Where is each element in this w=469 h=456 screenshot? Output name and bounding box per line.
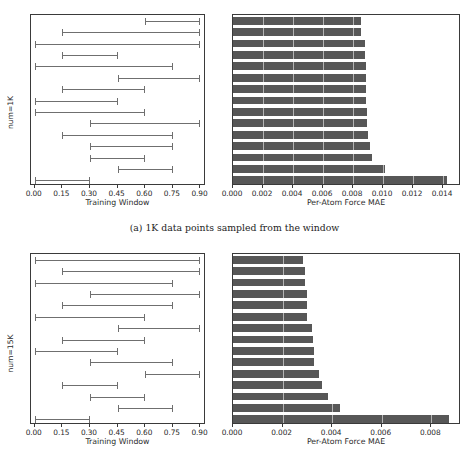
interval-range-mark: [35, 317, 146, 318]
panel-a-ylabel: num=1K: [6, 93, 15, 133]
bar: [233, 404, 340, 412]
gridline: [383, 15, 384, 184]
x-tick-label: 0.45: [109, 189, 125, 198]
bar: [233, 415, 449, 423]
interval-range-mark: [118, 328, 201, 329]
interval-range-mark: [62, 89, 145, 90]
x-tick: [232, 424, 233, 427]
interval-cap-left: [90, 120, 91, 127]
interval-range-mark: [62, 55, 117, 56]
interval-range-mark: [90, 362, 173, 363]
bar: [233, 28, 361, 36]
interval-range-mark: [90, 146, 173, 147]
interval-cap-left: [90, 155, 91, 162]
interval-cap-left: [62, 29, 63, 36]
x-tick-label: 0.004: [321, 428, 342, 437]
x-tick-label: 0.75: [164, 428, 180, 437]
panel-b-ylabel: num=15K: [6, 334, 15, 374]
x-tick-label: 0.00: [26, 428, 42, 437]
x-tick: [442, 185, 443, 188]
x-tick-label: 0.75: [164, 189, 180, 198]
interval-range-mark: [35, 260, 201, 261]
x-tick: [331, 424, 332, 427]
interval-cap-right: [89, 177, 90, 184]
x-tick: [199, 185, 200, 188]
interval-cap-left: [62, 268, 63, 275]
interval-range-mark: [145, 374, 200, 375]
interval-range-mark: [90, 158, 145, 159]
x-tick-label: 0.002: [252, 189, 273, 198]
interval-cap-left: [35, 109, 36, 116]
x-tick: [117, 424, 118, 427]
interval-cap-left: [118, 405, 119, 412]
interval-cap-left: [62, 52, 63, 59]
gridline: [283, 254, 284, 423]
figure-root: num=1K 0.000.150.300.450.600.750.90 Trai…: [0, 0, 469, 456]
x-tick-label: 0.008: [420, 428, 441, 437]
x-tick-label: 0.012: [402, 189, 423, 198]
axes-a-right: [232, 14, 460, 185]
interval-cap-right: [172, 166, 173, 173]
interval-cap-left: [62, 86, 63, 93]
x-tick-label: 0.60: [136, 189, 152, 198]
bar: [233, 165, 385, 173]
x-tick: [292, 185, 293, 188]
interval-range-mark: [118, 78, 201, 79]
x-tick: [352, 185, 353, 188]
bar: [233, 301, 307, 309]
x-tick: [322, 185, 323, 188]
interval-range-mark: [62, 385, 117, 386]
interval-cap-left: [35, 416, 36, 423]
x-tick-label: 0.90: [191, 189, 207, 198]
x-tick-label: 0.30: [81, 189, 97, 198]
interval-cap-left: [35, 41, 36, 48]
bar: [233, 51, 365, 59]
x-tick: [282, 424, 283, 427]
interval-range-mark: [35, 419, 90, 420]
x-tick: [144, 424, 145, 427]
x-tick: [34, 424, 35, 427]
panel-a-left-xlabel: Training Window: [30, 198, 205, 207]
interval-cap-right: [117, 98, 118, 105]
gridline: [323, 15, 324, 184]
interval-cap-right: [144, 86, 145, 93]
bar: [233, 62, 366, 70]
x-tick-label: 0.008: [342, 189, 363, 198]
bar: [233, 74, 366, 82]
x-tick: [117, 185, 118, 188]
caption-a: (a) 1K data points sampled from the wind…: [0, 222, 469, 233]
x-tick: [34, 185, 35, 188]
gridline: [413, 15, 414, 184]
interval-range-mark: [35, 112, 146, 113]
x-tick-label: 0.30: [81, 428, 97, 437]
bar: [233, 279, 305, 287]
interval-cap-right: [144, 394, 145, 401]
interval-cap-right: [172, 359, 173, 366]
interval-range-mark: [62, 340, 145, 341]
bar: [233, 97, 366, 105]
interval-cap-left: [35, 348, 36, 355]
interval-cap-left: [35, 280, 36, 287]
bar: [233, 324, 312, 332]
gridline: [293, 15, 294, 184]
gridline: [353, 15, 354, 184]
x-tick: [199, 424, 200, 427]
interval-cap-left: [90, 394, 91, 401]
x-tick: [61, 424, 62, 427]
bar: [233, 267, 305, 275]
x-tick: [89, 424, 90, 427]
x-tick-label: 0.45: [109, 428, 125, 437]
bar: [233, 370, 319, 378]
interval-cap-left: [145, 18, 146, 25]
x-tick: [172, 424, 173, 427]
interval-range-mark: [62, 32, 200, 33]
interval-cap-right: [172, 302, 173, 309]
bar: [233, 393, 328, 401]
interval-cap-right: [199, 325, 200, 332]
x-tick: [61, 185, 62, 188]
interval-cap-right: [199, 371, 200, 378]
axes-b-left: [30, 253, 205, 424]
x-tick-label: 0.004: [282, 189, 303, 198]
gridline: [431, 254, 432, 423]
interval-cap-right: [144, 337, 145, 344]
